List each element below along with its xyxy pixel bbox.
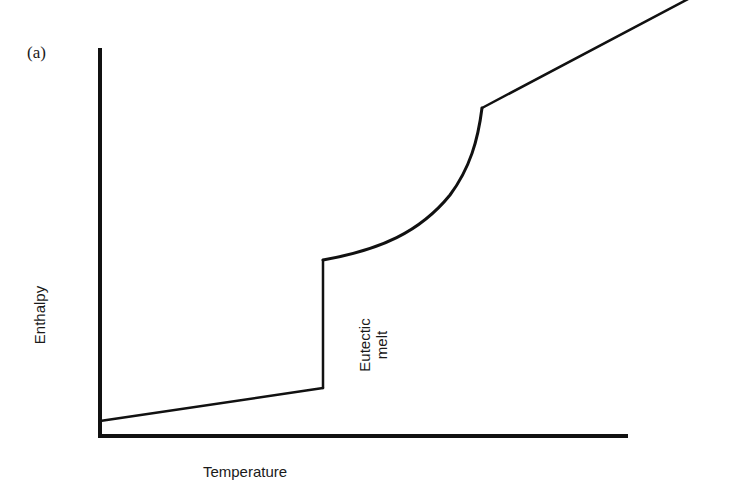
enthalpy-temperature-diagram: (a) Eutectic melt Enthalpy Temperature bbox=[0, 0, 744, 498]
annotation-line-2: melt bbox=[373, 330, 390, 359]
melting-range-curve bbox=[323, 108, 482, 260]
liquid-segment bbox=[482, 0, 690, 108]
figure: (a) Eutectic melt Enthalpy Temperature bbox=[0, 0, 744, 498]
annotation-line-1: Eutectic bbox=[356, 318, 373, 372]
solid-segment bbox=[100, 388, 323, 421]
y-axis-label: Enthalpy bbox=[31, 285, 48, 344]
eutectic-melt-annotation: Eutectic melt bbox=[356, 318, 390, 372]
panel-label: (a) bbox=[27, 43, 46, 62]
enthalpy-curve bbox=[100, 0, 690, 421]
x-axis-label: Temperature bbox=[203, 463, 287, 480]
